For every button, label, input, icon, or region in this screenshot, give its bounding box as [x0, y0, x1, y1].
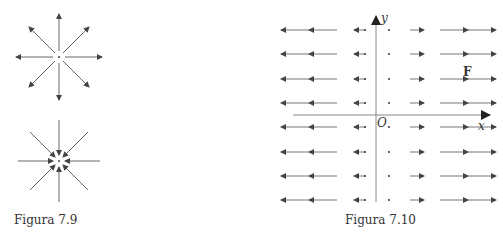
x-axis-label: x: [478, 119, 485, 133]
figure-7-10-caption: Figura 7.10: [345, 213, 416, 227]
source-field-diagram: [16, 14, 102, 100]
y-axis-label: y: [380, 11, 388, 25]
origin-label: O: [377, 116, 387, 130]
field-f-label: F: [463, 65, 472, 79]
figures-canvas: y x O F: [0, 0, 503, 237]
figure-7-9-caption: Figura 7.9: [14, 213, 77, 227]
coordinate-axes: [293, 16, 490, 202]
sink-field-diagram: [18, 120, 100, 202]
